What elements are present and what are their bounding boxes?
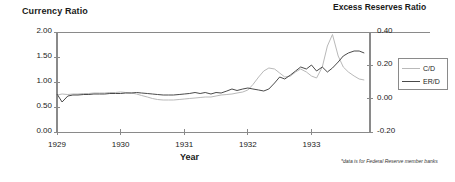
legend-swatch-cd [402,68,420,69]
x-axis-tick-label: 1933 [291,140,331,149]
y-axis-tick-label: 2.00 [22,26,52,35]
x-axis-tick-label: 1932 [228,140,268,149]
chart-footnote: *data is for Federal Reserve member bank… [341,158,438,164]
chart-legend[interactable]: C/D ER/D [398,58,448,90]
y-axis-tick-label: 1.00 [22,76,52,85]
right-axis-tick-label: -0.20 [377,126,411,135]
x-axis-tick-label: 1931 [164,140,204,149]
right-axis-tick-label: 0.40 [377,26,411,35]
chart-figure: Currency Ratio Excess Reserves Ratio 0.0… [0,0,455,182]
x-axis-tick-label: 1930 [101,140,141,149]
right-axis-tick-label: 0.00 [377,93,411,102]
x-axis-tick-label: 1929 [37,140,77,149]
y-axis-tick-label: 1.50 [22,51,52,60]
x-axis-title: Year [180,152,199,162]
legend-label-cd: C/D [423,63,435,74]
legend-label-erd: ER/D [423,76,440,87]
series-line-er-d [57,51,364,102]
legend-swatch-erd [402,81,420,82]
series-line-c-d [57,35,364,101]
y-axis-tick-label: 0.00 [22,126,52,135]
y-axis-tick-label: 0.50 [22,101,52,110]
